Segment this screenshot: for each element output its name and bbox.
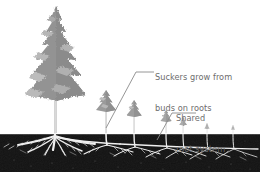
label-shared-line2: root system xyxy=(176,144,225,154)
tree-sucker-propagation-diagram: Suckers grow from buds on roots Shared r… xyxy=(0,0,260,172)
label-suckers-line1: Suckers grow from xyxy=(155,72,232,82)
label-shared-line1: Shared xyxy=(176,113,225,123)
label-shared-root-system: Shared root system xyxy=(176,93,225,172)
